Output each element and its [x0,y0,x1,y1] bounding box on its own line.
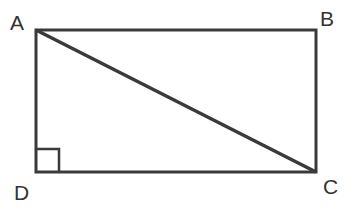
vertex-label-b: B [320,7,334,30]
rectangle-diagram: A B C D [0,0,356,218]
vertex-label-a: A [10,11,24,34]
vertex-label-c: C [323,175,338,198]
vertex-label-d: D [14,181,29,204]
diagonal-ac [36,30,316,172]
right-angle-marker [36,149,59,172]
